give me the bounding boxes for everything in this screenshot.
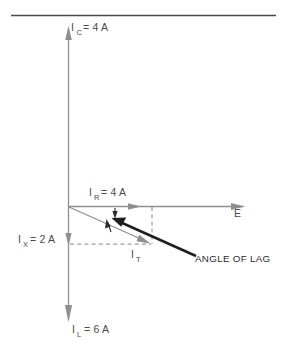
ix-label-symbol: I <box>18 233 21 245</box>
angle-of-lag-label: ANGLE OF LAG <box>195 253 270 264</box>
ir-arrowhead-icon <box>128 203 141 210</box>
ic-label-symbol: I <box>71 21 74 33</box>
angle-indicator-upper-arrowhead-icon <box>112 211 117 219</box>
ir-label-value: = 4 A <box>101 186 126 198</box>
il-label-subscript: L <box>77 330 81 339</box>
it-label-symbol: I <box>131 248 134 260</box>
vector-diagram-figure: I C = 4 A I R = 4 A I X = 2 A I L = 6 A … <box>0 0 286 359</box>
il-label-value: = 6 A <box>84 323 109 335</box>
ix-label-subscript: X <box>23 240 28 249</box>
ix-label-value: = 2 A <box>30 233 55 245</box>
it-label-subscript: T <box>136 255 141 264</box>
ic-label-value: = 4 A <box>83 21 108 33</box>
il-arrowhead-icon <box>65 305 72 322</box>
il-label-symbol: I <box>72 323 75 335</box>
angle-of-lag-arrowhead-icon <box>112 218 127 227</box>
e-axis-label: E <box>234 207 241 219</box>
it-resultant-vector <box>69 207 142 240</box>
ir-label-symbol: I <box>89 186 92 198</box>
ic-label-subscript: C <box>77 28 83 37</box>
ir-label-subscript: R <box>94 193 100 202</box>
